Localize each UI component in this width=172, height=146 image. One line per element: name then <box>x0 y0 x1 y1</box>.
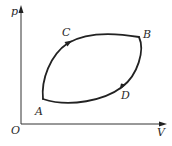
v-axis-label: V <box>157 126 166 139</box>
point-label-a: A <box>34 105 43 118</box>
origin-label: O <box>11 124 20 137</box>
point-label-d: D <box>120 89 130 102</box>
point-label-b: B <box>142 28 151 41</box>
point-label-c: C <box>62 26 71 39</box>
pv-diagram: p O V C B D A <box>0 0 172 146</box>
p-axis-arrowhead <box>19 5 24 13</box>
p-axis-label: p <box>11 5 18 18</box>
